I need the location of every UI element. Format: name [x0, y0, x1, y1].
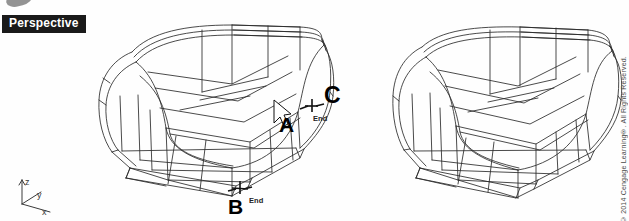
annotation-label-b: B: [228, 196, 243, 217]
annotation-label-c: C: [324, 85, 341, 106]
annotation-label-a: A: [279, 114, 294, 135]
osnap-tooltip-end-b: End: [249, 197, 263, 205]
copyright-notice: © 2014 Cengage Learning®. All Rights Res…: [620, 56, 628, 221]
cad-viewport[interactable]: Perspective: [0, 0, 629, 221]
osnap-markers-layer: [0, 0, 629, 221]
endpoint-snap-marker-c: [300, 99, 324, 112]
endpoint-snap-marker-b: [228, 181, 252, 194]
osnap-tooltip-end-c: End: [313, 115, 327, 123]
